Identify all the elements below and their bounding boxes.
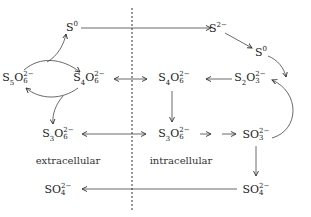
node-s0-extracellular: S0 [66, 21, 78, 33]
arrow-s2-to-s0 [225, 33, 252, 48]
node-s2-minus: S2− [209, 22, 227, 34]
node-s4o6-extracellular: S4O2−6 [73, 71, 104, 86]
arrow-cycle-to-s0 [47, 34, 66, 62]
node-s2o3: S2O2−3 [234, 71, 265, 86]
node-so4-extracellular: SO2−4 [45, 183, 72, 197]
node-s4o6-intracellular: S4O2−6 [158, 71, 189, 86]
node-s3o6-extracellular: S3O2−6 [42, 127, 73, 142]
node-s5o6: S5O2−6 [2, 71, 33, 86]
arrow-so3-to-s2o3 [272, 80, 293, 138]
arrow-s4o6-to-s5o6 [26, 88, 78, 97]
arrow-cycle-to-s3o6 [53, 96, 63, 124]
node-so4-intracellular: SO2−4 [243, 183, 270, 197]
node-so3: SO2−3 [243, 128, 270, 142]
node-s3o6-intracellular: S3O2−6 [158, 127, 189, 142]
label-intracellular: intracellular [150, 155, 213, 166]
node-s0-intracellular: S0 [255, 46, 267, 58]
label-extracellular: extracellular [36, 155, 101, 166]
arrow-s0-to-s2o3 [268, 56, 286, 77]
